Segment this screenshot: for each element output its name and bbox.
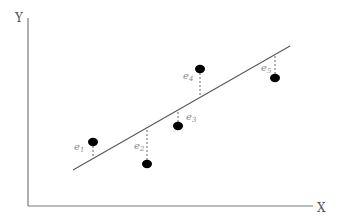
- data-point: [270, 74, 280, 82]
- data-point-group: e4: [183, 65, 205, 97]
- residual-label: e3: [186, 111, 197, 124]
- data-point-group: e5: [261, 55, 280, 82]
- residual-label: e5: [261, 62, 272, 75]
- regression-diagram: Y X e1e2e3e4e5: [0, 0, 343, 219]
- residual-label: e4: [183, 70, 193, 83]
- x-axis-label: X: [317, 201, 326, 215]
- data-point-group: e1: [74, 138, 98, 158]
- data-point: [142, 160, 152, 168]
- data-point: [88, 138, 98, 146]
- residual-label: e1: [74, 141, 84, 154]
- data-point: [173, 122, 183, 130]
- y-axis-label: Y: [14, 11, 24, 25]
- residual-label: e2: [134, 140, 145, 153]
- regression-line: [73, 46, 290, 170]
- data-point: [195, 65, 205, 73]
- data-point-group: e3: [173, 110, 197, 130]
